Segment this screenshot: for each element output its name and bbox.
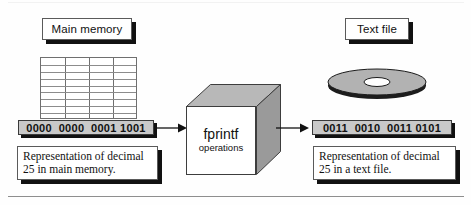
memory-caption-label: Representation of decimal 25 in main mem… <box>23 150 152 176</box>
main-memory-title-box: Main memory <box>42 18 132 40</box>
arrow-right-icon <box>156 121 188 135</box>
text-file-title-label: Text file <box>357 23 397 35</box>
process-cube-icon: fprintf operations <box>186 84 286 175</box>
file-caption-box: Representation of decimal 25 in a text f… <box>313 146 456 180</box>
bottom-divider <box>8 196 464 197</box>
main-memory-title-label: Main memory <box>52 23 123 35</box>
disc-platter-icon <box>327 68 427 102</box>
memory-binary-label: 0000 0000 0001 1001 <box>26 122 145 134</box>
top-divider <box>8 2 464 3</box>
memory-binary-value: 0000 0000 0001 1001 <box>18 120 154 135</box>
file-caption-label: Representation of decimal 25 in a text f… <box>319 150 450 176</box>
file-binary-value: 0011 0010 0011 0101 <box>312 120 452 135</box>
process-label: fprintf <box>203 127 238 142</box>
process-sublabel: operations <box>199 142 243 154</box>
file-binary-label: 0011 0010 0011 0101 <box>323 122 441 134</box>
memory-grid-icon <box>40 57 137 119</box>
fprintf-diagram: Main memory Text file 0000 0000 0001 100… <box>0 0 471 205</box>
arrow-right-icon <box>276 121 310 135</box>
text-file-title-box: Text file <box>345 18 409 40</box>
memory-caption-box: Representation of decimal 25 in main mem… <box>17 146 158 180</box>
cube-front-face: fprintf operations <box>186 106 256 175</box>
